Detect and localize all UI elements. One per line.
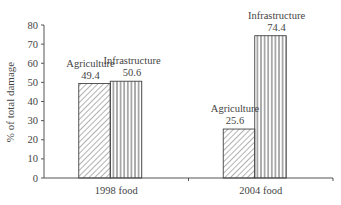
x-axis: 1998 food2004 food	[44, 178, 333, 196]
x-tick-label: 2004 food	[239, 185, 283, 196]
data-label-value: 49.4	[81, 70, 100, 81]
data-label-name: Agriculture	[211, 103, 260, 114]
bar-agriculture	[79, 84, 111, 178]
y-tick-label: 80	[28, 20, 39, 31]
bar-chart: 01020304050607080 1998 food2004 food Agr…	[0, 0, 341, 205]
y-axis-label: % of total damage	[4, 62, 16, 142]
y-tick-label: 0	[33, 173, 38, 184]
y-tick-label: 50	[28, 77, 39, 88]
data-label-value: 50.6	[123, 67, 141, 78]
y-tick-label: 70	[28, 39, 39, 50]
data-label-value: 25.6	[226, 115, 244, 126]
y-tick-label: 40	[28, 96, 39, 107]
x-tick-label: 1998 food	[95, 185, 139, 196]
y-tick-label: 60	[28, 58, 39, 69]
y-axis: 01020304050607080	[28, 20, 45, 184]
bar-agriculture	[223, 129, 255, 178]
y-tick-label: 30	[28, 115, 39, 126]
data-label-name: Infrastructure	[248, 10, 305, 21]
bar-infrastructure	[255, 36, 287, 178]
data-label-value: 74.4	[267, 22, 286, 33]
data-label-name: Infrastructure	[103, 55, 160, 66]
bar-infrastructure	[110, 81, 142, 178]
y-tick-label: 10	[28, 153, 39, 164]
y-tick-label: 20	[28, 134, 39, 145]
